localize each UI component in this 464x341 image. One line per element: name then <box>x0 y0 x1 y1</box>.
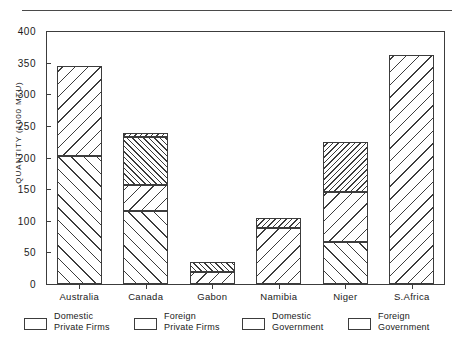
y-tick-mark <box>46 252 51 253</box>
y-tick-label: 100 <box>18 215 36 226</box>
y-tick-label: 50 <box>24 247 36 258</box>
bar-gabon[interactable] <box>190 31 235 284</box>
legend-label-line1: Domestic <box>54 311 110 322</box>
x-tick-label: Namibia <box>260 291 297 302</box>
y-tick-label: 0 <box>30 279 36 290</box>
legend-swatch-icon <box>242 318 265 330</box>
x-tick-mark <box>412 284 413 289</box>
header-rule <box>22 10 452 11</box>
y-tick-label: 300 <box>18 89 36 100</box>
y-tick-mark <box>46 221 51 222</box>
bar-segment[interactable] <box>123 185 168 212</box>
bar-australia[interactable] <box>57 31 102 284</box>
x-tick-mark <box>146 284 147 289</box>
bar-segment[interactable] <box>190 262 235 272</box>
x-tick-mark <box>345 284 346 289</box>
legend-label-line1: Foreign <box>164 311 220 322</box>
x-tick-mark <box>79 284 80 289</box>
x-tick-mark <box>279 284 280 289</box>
y-tick-label: 250 <box>18 120 36 131</box>
y-tick-label: 350 <box>18 57 36 68</box>
legend-label-line2: Government <box>378 322 430 333</box>
x-tick-mark <box>212 284 213 289</box>
y-tick-mark <box>46 158 51 159</box>
legend-label-line2: Private Firms <box>164 322 220 333</box>
bar-segment[interactable] <box>323 192 368 241</box>
bar-namibia[interactable] <box>256 31 301 284</box>
bar-segment[interactable] <box>190 272 235 284</box>
legend-label-line2: Private Firms <box>54 322 110 333</box>
bar-segment[interactable] <box>323 242 368 284</box>
y-tick-mark <box>46 63 51 64</box>
y-tick-mark <box>46 31 51 32</box>
legend-label: DomesticGovernment <box>272 311 324 333</box>
bar-segment[interactable] <box>256 228 301 284</box>
bar-segment[interactable] <box>57 156 102 284</box>
legend-label-line2: Government <box>272 322 324 333</box>
bar-segment[interactable] <box>57 66 102 155</box>
right-axis-line <box>444 31 445 285</box>
legend-label: ForeignPrivate Firms <box>164 311 220 333</box>
legend-swatch-icon <box>348 318 371 330</box>
bar-niger[interactable] <box>323 31 368 284</box>
y-tick-label: 400 <box>18 26 36 37</box>
y-tick-label: 150 <box>18 184 36 195</box>
y-tick-mark <box>46 94 51 95</box>
x-tick-label: Canada <box>128 291 163 302</box>
bar-segment[interactable] <box>323 142 368 193</box>
legend-label: ForeignGovernment <box>378 311 430 333</box>
legend-swatch-icon <box>134 318 157 330</box>
y-tick-mark <box>46 126 51 127</box>
legend-swatch-icon <box>24 318 47 330</box>
bar-segment[interactable] <box>123 133 168 136</box>
y-tick-mark <box>46 284 51 285</box>
legend-label: DomesticPrivate Firms <box>54 311 110 333</box>
bar-segment[interactable] <box>123 211 168 284</box>
x-axis-line <box>46 284 445 285</box>
bar-segment[interactable] <box>123 137 168 185</box>
x-tick-label: S.Africa <box>394 291 430 302</box>
legend-label-line1: Foreign <box>378 311 430 322</box>
x-tick-label: Niger <box>333 291 357 302</box>
y-axis-tick-labels: 050100150200250300350400 <box>0 31 42 284</box>
bar-segment[interactable] <box>256 218 301 227</box>
y-tick-label: 200 <box>18 152 36 163</box>
bar-canada[interactable] <box>123 31 168 284</box>
bar-segment[interactable] <box>389 55 434 284</box>
plot-area <box>46 31 445 284</box>
y-tick-mark <box>46 189 51 190</box>
x-tick-label: Australia <box>59 291 99 302</box>
legend-label-line1: Domestic <box>272 311 324 322</box>
bar-safrica[interactable] <box>389 31 434 284</box>
chart-legend: DomesticPrivate FirmsForeignPrivate Firm… <box>24 311 448 337</box>
x-tick-label: Gabon <box>197 291 227 302</box>
